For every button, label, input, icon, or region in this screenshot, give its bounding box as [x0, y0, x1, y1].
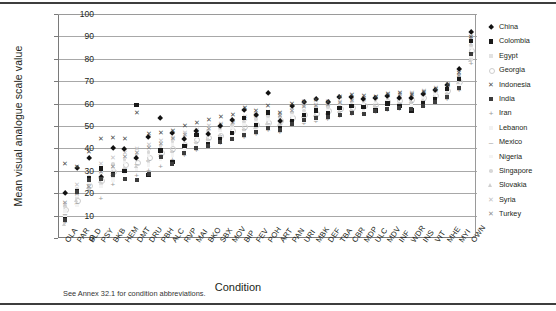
legend-marker-icon — [487, 24, 495, 32]
legend-label: Syria — [499, 193, 516, 207]
y-axis-tick-label: 40 — [54, 144, 94, 153]
legend-label: Egypt — [499, 49, 518, 63]
top-rule — [0, 2, 556, 4]
y-axis-tick-mark — [54, 193, 58, 194]
x-axis-tick-labels: OLAPARBLDPSYBKBHEMDMTDRUPBHALCRVPMAIBKOS… — [58, 239, 476, 279]
figure-container: Mean visual analogue scale value +++++++… — [0, 0, 556, 311]
figure-caption: See Annex 32.1 for condition abbreviatio… — [63, 289, 206, 298]
legend-marker-icon — [487, 38, 495, 46]
y-axis-tick-mark — [54, 104, 58, 105]
legend-label: Turkey — [499, 207, 521, 221]
legend-label: Colombia — [499, 34, 530, 48]
legend-marker-icon — [487, 53, 495, 61]
legend-item[interactable]: Georgia — [487, 63, 556, 77]
legend-item[interactable]: ✕Syria — [487, 193, 556, 207]
legend-label: Georgia — [499, 63, 525, 77]
gridline — [59, 81, 477, 82]
y-axis-tick-label: 100 — [54, 10, 94, 19]
legend-label: Mexico — [499, 135, 522, 149]
legend: ChinaColombiaEgyptGeorgia✕IndonesiaIndia… — [487, 20, 556, 221]
y-axis-tick-label: 50 — [54, 122, 94, 131]
legend-item[interactable]: Slovakia — [487, 178, 556, 192]
y-axis-tick-label: 10 — [54, 212, 94, 221]
legend-marker-icon — [487, 182, 495, 190]
y-axis-tick-label: 70 — [54, 77, 94, 86]
legend-label: Iran — [499, 106, 512, 120]
y-axis-tick-mark — [54, 59, 58, 60]
y-axis-tick-label: 30 — [54, 167, 94, 176]
y-axis-tick-mark — [54, 126, 58, 127]
y-axis-tick-label: 20 — [54, 189, 94, 198]
y-axis-tick-mark — [54, 238, 58, 239]
y-axis-tick-mark — [54, 148, 58, 149]
legend-item[interactable]: Egypt — [487, 49, 556, 63]
y-axis-tick-mark — [54, 36, 58, 37]
y-axis-title: Mean visual analogue scale value — [12, 26, 24, 226]
legend-item[interactable]: –Mexico — [487, 135, 556, 149]
legend-item[interactable]: Nigeria — [487, 150, 556, 164]
plot-area: +++++++++++++++++++++++++++++++++++–––––… — [58, 14, 476, 238]
legend-marker-icon — [487, 154, 495, 162]
y-axis-tick-mark — [54, 81, 58, 82]
legend-marker-icon — [487, 67, 495, 75]
legend-marker-icon: ✕ — [487, 82, 495, 90]
legend-label: China — [499, 20, 518, 34]
legend-marker-icon — [487, 168, 495, 176]
legend-marker-icon: ✕ — [487, 197, 495, 205]
legend-marker-icon: ✕ — [487, 211, 495, 219]
y-axis-tick-label: 60 — [54, 100, 94, 109]
legend-marker-icon: – — [487, 139, 495, 147]
legend-marker-icon — [487, 96, 495, 104]
gridline — [59, 59, 477, 60]
legend-marker-icon — [487, 125, 495, 133]
y-axis-tick-mark — [54, 171, 58, 172]
gridline — [59, 36, 477, 37]
y-axis-tick-label: 0 — [54, 234, 94, 243]
legend-item[interactable]: China — [487, 20, 556, 34]
legend-label: India — [499, 92, 515, 106]
gridline — [59, 14, 477, 15]
legend-label: Indonesia — [499, 78, 531, 92]
y-axis-tick-label: 80 — [54, 55, 94, 64]
legend-label: Singapore — [499, 164, 532, 178]
legend-label: Slovakia — [499, 178, 527, 192]
legend-marker-icon: + — [487, 110, 495, 118]
legend-item[interactable]: ✕Turkey — [487, 207, 556, 221]
legend-item[interactable]: Lebanon — [487, 121, 556, 135]
bottom-rule — [0, 303, 556, 305]
gridline — [59, 193, 477, 194]
gridline — [59, 216, 477, 217]
legend-item[interactable]: India — [487, 92, 556, 106]
legend-item[interactable]: +Iran — [487, 106, 556, 120]
legend-item[interactable]: Colombia — [487, 34, 556, 48]
legend-label: Lebanon — [499, 121, 527, 135]
legend-label: Nigeria — [499, 150, 522, 164]
y-axis-tick-mark — [54, 14, 58, 15]
y-axis-tick-mark — [54, 216, 58, 217]
legend-item[interactable]: Singapore — [487, 164, 556, 178]
legend-item[interactable]: ✕Indonesia — [487, 78, 556, 92]
y-axis-tick-label: 90 — [54, 32, 94, 41]
